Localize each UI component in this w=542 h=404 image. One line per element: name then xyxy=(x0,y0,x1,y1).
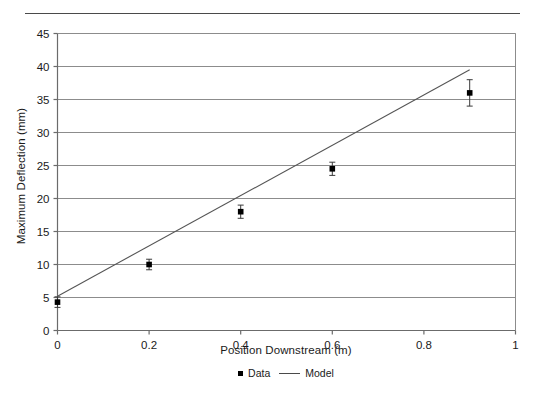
data-marker-4 xyxy=(467,90,473,96)
y-tick-label-0: 0 xyxy=(43,325,49,337)
plot-frame xyxy=(58,34,516,331)
y-tick-label-30: 30 xyxy=(37,127,50,139)
data-marker-1 xyxy=(146,262,152,268)
square-marker-icon xyxy=(238,371,243,376)
y-tick-label-25: 25 xyxy=(37,160,50,172)
x-axis-title: Position Downstream (m) xyxy=(57,344,515,356)
data-point-3 xyxy=(329,162,335,175)
legend-label-model: Model xyxy=(305,368,334,379)
series-model xyxy=(58,70,470,296)
line-segment-icon xyxy=(279,373,300,375)
data-point-4 xyxy=(467,80,473,106)
chart-plot-area-wrapper: 05101520253035404500.20.40.60.81 Maximum… xyxy=(0,0,542,404)
figure-caption-sliver xyxy=(30,396,510,404)
y-tick-label-35: 35 xyxy=(37,94,50,106)
chart-legend: Data Model xyxy=(57,368,515,379)
data-point-0 xyxy=(55,297,61,308)
data-marker-2 xyxy=(238,209,244,215)
data-marker-3 xyxy=(330,166,336,172)
y-tick-label-5: 5 xyxy=(43,292,49,304)
series-data xyxy=(55,80,473,308)
y-tick-label-40: 40 xyxy=(37,61,50,73)
model-line xyxy=(58,70,470,296)
y-tick-label-45: 45 xyxy=(37,28,50,40)
y-axis-ticks: 051015202530354045 xyxy=(37,28,58,337)
data-marker-0 xyxy=(55,299,61,305)
y-tick-label-15: 15 xyxy=(37,226,50,238)
data-point-2 xyxy=(238,205,244,218)
legend-entry-data: Data xyxy=(238,368,270,379)
y-tick-label-20: 20 xyxy=(37,193,50,205)
y-tick-label-10: 10 xyxy=(37,259,50,271)
figure-container: 05101520253035404500.20.40.60.81 Maximum… xyxy=(0,0,542,404)
y-axis-title: Maximum Deflection (mm) xyxy=(15,66,27,286)
legend-label-data: Data xyxy=(248,368,270,379)
data-point-1 xyxy=(146,259,152,270)
legend-entry-model: Model xyxy=(279,368,334,379)
